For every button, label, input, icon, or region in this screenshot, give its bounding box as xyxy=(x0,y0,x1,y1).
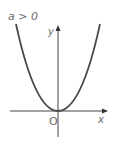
parabola-diagram: a > 0 y O x xyxy=(0,0,117,143)
x-axis-arrow-icon xyxy=(102,109,108,114)
origin-label: O xyxy=(49,115,58,128)
x-axis-label: x xyxy=(97,114,104,125)
condition-label: a > 0 xyxy=(8,10,38,23)
y-axis-label: y xyxy=(47,26,55,37)
y-axis-arrow-icon xyxy=(56,25,61,31)
